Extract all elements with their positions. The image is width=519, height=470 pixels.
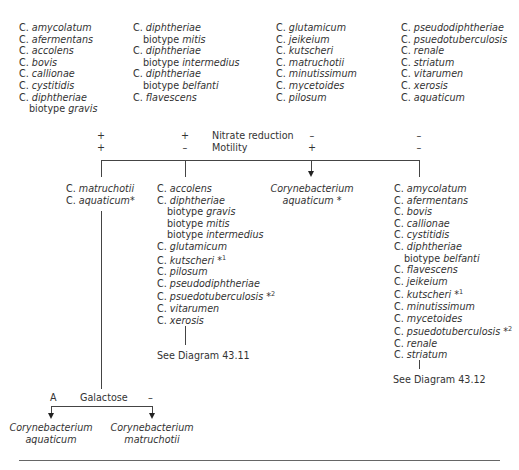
- nitrate-value-branch-1: +: [95, 130, 107, 142]
- species-item: C. cystitidis: [19, 80, 97, 92]
- motility-value-branch-4: –: [413, 142, 425, 154]
- species-item: C. diphtheriae: [19, 92, 97, 104]
- species-item: C. flavescens: [394, 264, 512, 276]
- species-item: C. diphtheriae: [394, 241, 512, 253]
- galactose-right-result: Corynebacterium matruchotii: [102, 422, 202, 445]
- branch-1-species: C. matruchotii C. aquaticum*: [66, 183, 135, 206]
- species-item: C. psuedotuberculosis *2: [157, 289, 275, 303]
- nitrate-value-branch-3: –: [306, 130, 318, 142]
- species-item: C. flavescens: [133, 92, 240, 104]
- species-item: C. xerosis: [401, 80, 507, 92]
- see-diagram-43-11-link[interactable]: See Diagram 43.11: [157, 350, 250, 362]
- species-item: C. jeikeium: [394, 276, 512, 288]
- branch-4-species: C. amycolatum C. afermentans C. bovis C.…: [394, 183, 512, 361]
- species-item: C. cystitidis: [394, 229, 512, 241]
- galactose-label: Galactose: [80, 392, 128, 404]
- nitrate-reduction-label: Nitrate reduction: [212, 130, 294, 142]
- species-item: C. glutamicum: [276, 22, 357, 34]
- species-item: C. kutscheri *1: [394, 287, 512, 301]
- branch-1-drop: [101, 160, 102, 177]
- species-biotype: biotype gravis: [157, 206, 275, 218]
- species-item: C. bovis: [394, 206, 512, 218]
- branch-4-reference-line: [419, 360, 420, 369]
- galactose-right-arrow-icon: [149, 413, 155, 419]
- branch-2-species: C. accolens C. diphtheriae biotype gravi…: [157, 183, 275, 326]
- species-biotype: biotype intermedius: [157, 229, 275, 241]
- species-biotype: biotype belfanti: [133, 80, 240, 92]
- species-item: C. aquaticum*: [66, 195, 135, 207]
- species-item: C. kutscheri: [276, 45, 357, 57]
- species-item: C. renale: [401, 45, 507, 57]
- branch-3-arrow-icon: [308, 171, 314, 177]
- species-item: C. kutscheri *1: [157, 253, 275, 267]
- species-item: C. glutamicum: [157, 241, 275, 253]
- species-list-col-4: C. pseudodiphtheriae C. psuedotuberculos…: [401, 22, 507, 103]
- branch-2-reference-line: [185, 326, 186, 345]
- species-item: C. matruchotii: [276, 57, 357, 69]
- species-item: C. vitarumen: [157, 303, 275, 315]
- species-biotype: biotype mitis: [133, 34, 240, 46]
- species-list-col-2: C. diphtheriae biotype mitis C. diphther…: [133, 22, 240, 103]
- branch-1-to-galactose-line: [101, 211, 102, 389]
- species-list-col-3: C. glutamicum C. jeikeium C. kutscheri C…: [276, 22, 357, 103]
- species-list-col-1: C. amycolatum C. afermentans C. accolens…: [19, 22, 97, 115]
- species-item: C. afermentans: [19, 34, 97, 46]
- species-item: C. xerosis: [157, 315, 275, 327]
- galactose-horizontal-connector: [51, 406, 152, 407]
- species-item: C. minutissimum: [394, 301, 512, 313]
- species-biotype: biotype belfanti: [394, 253, 512, 265]
- species-item: C. accolens: [157, 183, 275, 195]
- species-item: C. mycetoides: [394, 313, 512, 325]
- species-item: C. striatum: [394, 349, 512, 361]
- species-biotype: biotype intermedius: [133, 57, 240, 69]
- species-item: C. pseudodiphtheriae: [157, 278, 275, 290]
- species-item: C. diphtheriae: [157, 195, 275, 207]
- motility-value-branch-1: +: [95, 142, 107, 154]
- species-item: C. minutissimum: [276, 68, 357, 80]
- species-biotype: biotype gravis: [19, 103, 97, 115]
- motility-label: Motility: [212, 142, 247, 154]
- species-item: C. striatum: [401, 57, 507, 69]
- galactose-left-arrow-icon: [48, 413, 54, 419]
- species-item: C. vitarumen: [401, 68, 507, 80]
- species-item: C. afermentans: [394, 195, 512, 207]
- branch-3-result: Corynebacterium aquaticum *: [262, 183, 362, 206]
- see-diagram-43-12-link[interactable]: See Diagram 43.12: [393, 374, 486, 386]
- species-item: C. diphtheriae: [133, 45, 240, 57]
- galactose-right-value: –: [148, 392, 153, 404]
- species-item: C. jeikeium: [276, 34, 357, 46]
- species-item: C. renale: [394, 338, 512, 350]
- species-item: C. amycolatum: [394, 183, 512, 195]
- species-item: C. amycolatum: [19, 22, 97, 34]
- species-item: C. pseudodiphtheriae: [401, 22, 507, 34]
- branch-2-drop: [185, 160, 186, 177]
- motility-value-branch-3: +: [306, 142, 318, 154]
- species-item: C. callionae: [394, 218, 512, 230]
- species-item: C. psuedotuberculosis: [401, 34, 507, 46]
- species-item: C. mycetoides: [276, 80, 357, 92]
- species-item: C. callionae: [19, 68, 97, 80]
- nitrate-value-branch-2: +: [179, 130, 191, 142]
- species-item: C. matruchotii: [66, 183, 135, 195]
- species-item: C. aquaticum: [401, 92, 507, 104]
- species-item: C. diphtheriae: [133, 22, 240, 34]
- motility-value-branch-2: –: [179, 142, 191, 154]
- species-item: C. accolens: [19, 45, 97, 57]
- top-horizontal-connector: [101, 160, 420, 161]
- species-item: C. psuedotuberculosis *2: [394, 324, 512, 338]
- species-biotype: biotype mitis: [157, 218, 275, 230]
- species-item: C. diphtheriae: [133, 68, 240, 80]
- galactose-left-value: A: [50, 392, 57, 404]
- galactose-left-result: Corynebacterium aquaticum: [1, 422, 101, 445]
- branch-4-drop: [419, 160, 420, 177]
- species-item: C. pilosum: [276, 92, 357, 104]
- bottom-rule-divider: [19, 460, 500, 461]
- species-item: C. pilosum: [157, 266, 275, 278]
- species-item: C. bovis: [19, 57, 97, 69]
- nitrate-value-branch-4: –: [413, 130, 425, 142]
